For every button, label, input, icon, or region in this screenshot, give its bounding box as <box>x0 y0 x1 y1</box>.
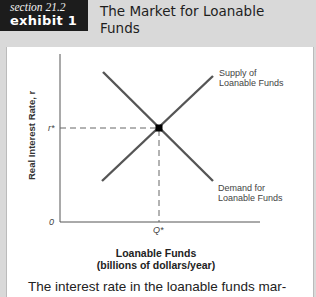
supply-label: Supply of Loanable Funds <box>219 69 284 88</box>
caption-text: The interest rate in the loanable funds … <box>28 279 286 294</box>
demand-label: Demand for Loanable Funds <box>218 184 283 203</box>
origin-label: 0 <box>49 218 54 228</box>
q-star-label: Q* <box>153 226 164 236</box>
x-axis-title: Loanable Funds <box>0 247 314 259</box>
demand-label-line2: Loanable Funds <box>218 194 283 204</box>
r-star-label: r* <box>48 124 55 134</box>
x-axis-subtitle: (billions of dollars/year) <box>0 259 314 271</box>
supply-label-line2: Loanable Funds <box>219 79 284 89</box>
y-axis-label: Real Interest Rate, r <box>27 91 37 180</box>
equilibrium-point <box>156 125 163 132</box>
